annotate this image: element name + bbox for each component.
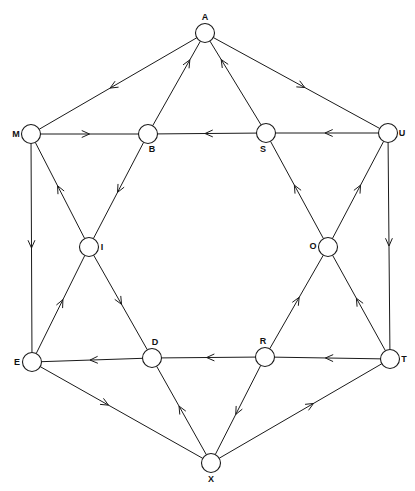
arrow-head-icon	[179, 406, 186, 414]
graph-node-d[interactable]: D	[143, 337, 162, 368]
node-circle-t[interactable]	[381, 350, 400, 369]
edge-s-to-b	[158, 130, 257, 137]
edge-o-to-u	[332, 141, 383, 238]
edge-e-to-x	[40, 367, 202, 459]
arrow-head-icon	[110, 81, 118, 88]
graph-node-m[interactable]: M	[12, 125, 40, 144]
node-label-r: R	[260, 336, 267, 346]
arrow-head-icon	[221, 60, 228, 68]
edge-e-to-i	[36, 256, 85, 354]
edge-r-to-x	[215, 365, 260, 454]
graph-node-u[interactable]: U	[379, 124, 406, 143]
edge-i-to-m	[35, 142, 84, 238]
arrow-head-icon	[100, 398, 108, 405]
edge-u-to-t	[385, 143, 392, 350]
graph-node-x[interactable]: X	[202, 454, 221, 485]
node-label-m: M	[12, 129, 20, 139]
graph-node-i[interactable]: I	[80, 238, 104, 257]
node-label-o: O	[309, 241, 316, 251]
node-label-d: D	[152, 337, 159, 347]
nodes-layer: AMBSUIOEDRTX	[12, 12, 407, 484]
node-circle-u[interactable]	[379, 124, 398, 143]
node-label-b: B	[149, 144, 156, 154]
edge-r-to-o	[270, 255, 324, 349]
node-circle-a[interactable]	[196, 24, 215, 43]
edge-u-to-s	[276, 130, 379, 137]
node-circle-e[interactable]	[23, 353, 42, 372]
arrow-head-icon	[305, 403, 313, 410]
edge-r-to-d	[162, 354, 256, 361]
arrow-head-icon	[356, 298, 363, 306]
arrow-head-icon	[292, 297, 299, 305]
graph-node-r[interactable]: R	[256, 336, 275, 367]
edge-b-to-i	[93, 142, 143, 238]
arrow-head-icon	[183, 60, 190, 68]
node-circle-i[interactable]	[80, 238, 99, 257]
edge-x-to-t	[219, 364, 382, 458]
edge-a-to-m	[39, 38, 197, 129]
edge-t-to-o	[333, 255, 386, 350]
node-circle-m[interactable]	[22, 125, 41, 144]
node-circle-x[interactable]	[202, 454, 221, 473]
graph-node-b[interactable]: B	[139, 125, 158, 155]
graph-node-s[interactable]: S	[257, 124, 276, 155]
arrow-head-icon	[115, 296, 122, 304]
node-label-e: E	[14, 357, 20, 367]
edge-d-to-e	[41, 356, 142, 363]
graph-node-a[interactable]: A	[196, 12, 215, 43]
edge-t-to-r	[275, 355, 381, 362]
node-circle-o[interactable]	[319, 238, 338, 257]
node-label-i: I	[101, 242, 104, 252]
graph-node-e[interactable]: E	[14, 353, 42, 372]
edge-m-to-e	[28, 144, 35, 353]
node-circle-b[interactable]	[139, 125, 158, 144]
edge-a-to-u	[213, 38, 379, 129]
edge-i-to-d	[94, 255, 148, 349]
node-label-u: U	[399, 128, 406, 138]
node-circle-d[interactable]	[143, 349, 162, 368]
node-circle-r[interactable]	[256, 348, 275, 367]
node-label-x: X	[208, 474, 214, 484]
edge-b-to-a	[153, 41, 201, 125]
graph-node-o[interactable]: O	[309, 238, 337, 257]
edge-m-to-b	[41, 131, 139, 138]
node-label-s: S	[260, 144, 266, 154]
graph-node-t[interactable]: T	[381, 350, 408, 369]
graph-diagram: AMBSUIOEDRTX	[0, 0, 415, 491]
node-label-t: T	[401, 354, 407, 364]
node-label-a: A	[202, 12, 209, 22]
graph-canvas: AMBSUIOEDRTX	[0, 0, 415, 491]
edge-x-to-d	[157, 366, 207, 454]
edge-o-to-s	[271, 141, 324, 238]
edge-s-to-a	[210, 41, 261, 125]
node-circle-s[interactable]	[257, 124, 276, 143]
